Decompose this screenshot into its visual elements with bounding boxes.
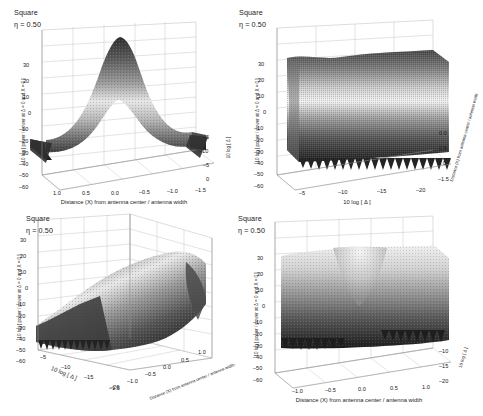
x-tick: 1.0 <box>53 190 61 196</box>
panel-title-line1: Square <box>26 214 50 223</box>
x-tick: 1.0 <box>422 384 430 390</box>
delta-tick: –10 <box>199 148 208 154</box>
x-tick: –1.0 <box>127 378 138 384</box>
surface-mesh <box>281 246 449 350</box>
panel-title-line2: η = 0.50 <box>14 20 41 29</box>
panel-bottom-right: Square η = 0.50 30 20 10 0 –10 –20 –30 –… <box>237 208 474 416</box>
panel-title-line1: Square <box>14 8 38 17</box>
delta-tick: –10 <box>338 189 347 195</box>
x-tick: 1.0 <box>438 160 446 166</box>
panel-bottom-left: Square η = 0.50 30 20 10 0 –10 –20 –30 –… <box>0 208 237 416</box>
x-tick: 0.5 <box>439 145 447 151</box>
delta-axis-label: 10 log [ Δ ] <box>226 118 231 178</box>
delta-tick: –5 <box>299 190 305 196</box>
delta-tick: –20 <box>439 378 448 384</box>
panel-title-line2: η = 0.50 <box>239 20 266 29</box>
x-tick: –0.5 <box>145 371 156 377</box>
x-tick: 0.5 <box>82 190 90 196</box>
z-tick: 0 <box>262 303 265 309</box>
delta-tick: –20 <box>416 187 425 193</box>
surface-mesh <box>36 252 206 351</box>
z-axis-label: 10 log [ power / power at Δ = 0 and X = … <box>254 250 259 380</box>
z-axis-label: 10 log [ power / power at Δ = 0 and X = … <box>21 56 26 186</box>
delta-tick: –5 <box>203 134 209 140</box>
panel-title-line1: Square <box>239 8 263 17</box>
x-axis-label: Distance (X) from antenna center / anten… <box>269 397 449 403</box>
panel-title-line2: η = 0.50 <box>238 226 265 235</box>
x-tick: –0.5 <box>139 189 150 195</box>
z-axis-label: 10 log [ power / power at Δ = 0 and X = … <box>255 56 260 186</box>
x-tick: 0.0 <box>163 364 171 370</box>
surface-mesh <box>287 50 451 170</box>
x-tick: 1.0 <box>198 349 206 355</box>
x-tick: –1.0 <box>292 388 303 394</box>
x-tick: –1.0 <box>167 188 178 194</box>
delta-tick: –15 <box>377 188 386 194</box>
x-tick: 0.0 <box>111 190 119 196</box>
panel-top-left: Square η = 0.50 30 20 10 0 –10 –20 –30 –… <box>0 0 237 208</box>
delta-tick: –5 <box>203 162 209 168</box>
surface-mesh <box>30 37 208 163</box>
x-tick: 0.5 <box>390 385 398 391</box>
delta-tick: –5 <box>40 354 46 360</box>
floor-grid <box>275 348 451 388</box>
z-tick: 0 <box>28 110 31 116</box>
x-tick: 0.0 <box>358 386 366 392</box>
panel-top-right: Square η = 0.50 30 20 10 0 –10 –20 –30 –… <box>237 0 474 208</box>
panel-title-line2: η = 0.50 <box>26 226 53 235</box>
panel-title-line1: Square <box>238 214 262 223</box>
x-tick: 0.0 <box>439 130 447 136</box>
delta-tick: –15 <box>439 363 448 369</box>
delta-tick: 0 <box>206 176 209 182</box>
x-tick: –1.5 <box>195 187 206 193</box>
x-tick: –0.5 <box>325 387 336 393</box>
z-tick: 0 <box>25 285 28 291</box>
x-tick: –1.5 <box>438 176 449 182</box>
z-tick: 0 <box>263 109 266 115</box>
floor-grid <box>42 150 214 190</box>
delta-tick: –10 <box>439 348 448 354</box>
z-axis-label: 10 log [ power / power at Δ = 0 and X = … <box>17 232 22 362</box>
x-axis-label: Distance (X) from antenna center / anten… <box>34 199 214 205</box>
x-tick: 0.5 <box>181 357 189 363</box>
delta-axis-label: 10 log [ Δ ] <box>282 199 432 205</box>
x-tick: –1.5 <box>109 385 120 391</box>
